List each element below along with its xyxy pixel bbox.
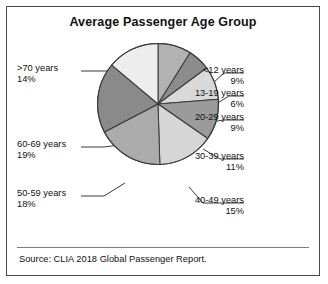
chart-title: Average Passenger Age Group — [7, 15, 319, 29]
callout-20-29-percent: 9% — [134, 123, 244, 134]
callout-lt12: <12 years 9% — [134, 65, 244, 88]
callout-20-29-category: 20-29 years — [134, 112, 244, 123]
callout-gt70-category: >70 years — [17, 63, 107, 74]
callout-lt12-percent: 9% — [134, 76, 244, 87]
callout-30-39-category: 30-39 years — [134, 151, 244, 162]
callout-gt70: >70 years 14% — [17, 63, 107, 86]
pie-chart-plot-area: <12 years 9% 13-19 years 6% 20-29 years … — [7, 33, 321, 245]
chart-figure: Average Passenger Age Group <12 years 9% — [6, 6, 320, 276]
footer-divider — [17, 247, 309, 248]
callout-50-59-percent: 18% — [17, 199, 107, 210]
source-note: Source: CLIA 2018 Global Passenger Repor… — [19, 254, 207, 264]
callout-30-39-percent: 11% — [134, 162, 244, 173]
callout-30-39: 30-39 years 11% — [134, 151, 244, 174]
callout-40-49-category: 40-49 years — [134, 195, 244, 206]
callout-50-59: 50-59 years 18% — [17, 188, 107, 211]
callout-20-29: 20-29 years 9% — [134, 112, 244, 135]
callout-13-19-percent: 6% — [134, 99, 244, 110]
callout-60-69: 60-69 years 19% — [17, 139, 107, 162]
callout-13-19-category: 13-19 years — [134, 88, 244, 99]
callout-40-49: 40-49 years 15% — [134, 195, 244, 218]
callout-60-69-percent: 19% — [17, 150, 107, 161]
callout-40-49-percent: 15% — [134, 206, 244, 217]
callout-lt12-category: <12 years — [134, 65, 244, 76]
callout-gt70-percent: 14% — [17, 74, 107, 85]
callout-60-69-category: 60-69 years — [17, 139, 107, 150]
callout-13-19: 13-19 years 6% — [134, 88, 244, 111]
callout-50-59-category: 50-59 years — [17, 188, 107, 199]
